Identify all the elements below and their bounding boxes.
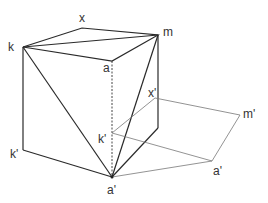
label-x: x	[79, 11, 85, 25]
diagonal-m-aprime	[112, 35, 158, 177]
label-mprime: m'	[243, 107, 255, 121]
label-k: k	[8, 40, 15, 54]
label-kprime-inner: k'	[98, 132, 106, 146]
diagonal-k-aprime	[23, 47, 112, 177]
edge-kprime-aprime	[23, 150, 112, 177]
label-m: m	[163, 25, 173, 39]
label-a: a	[103, 61, 110, 75]
label-kprime-left: k'	[10, 147, 18, 161]
projection-face	[112, 98, 240, 161]
projection-aprime-aprime	[112, 161, 212, 177]
point-aprime	[111, 176, 114, 179]
edge-mbottom-aprime	[112, 128, 158, 177]
diagram-canvas: x m k a k' x' m' k' a' a'	[0, 0, 268, 203]
label-aprime-bottom: a'	[107, 183, 116, 197]
label-xprime: x'	[148, 86, 156, 100]
cube-top-face	[23, 28, 158, 61]
label-aprime-right: a'	[213, 164, 222, 178]
